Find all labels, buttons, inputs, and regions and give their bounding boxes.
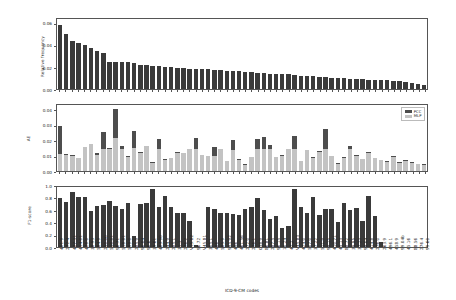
x-tick-mark	[326, 90, 327, 92]
x-tick-mark	[289, 90, 290, 92]
x-tick-label: 410.71	[332, 235, 337, 250]
bar	[243, 72, 247, 89]
bar	[76, 43, 80, 89]
x-tick-mark	[326, 172, 327, 174]
x-tick-label: V15.82	[189, 235, 194, 250]
bar-mlp	[120, 149, 124, 172]
x-tick-mark	[109, 172, 110, 174]
x-tick-label: 496	[233, 242, 238, 250]
legend-item-mlp: MLP	[405, 114, 422, 118]
bar	[231, 71, 235, 89]
bar-mlp	[255, 149, 259, 172]
x-tick-mark	[146, 172, 147, 174]
x-tick-mark	[301, 172, 302, 174]
bar	[342, 78, 346, 89]
bar	[83, 45, 87, 89]
x-tick-label: 99.60	[425, 238, 430, 250]
y-tick-mark	[54, 110, 56, 111]
x-tick-label: 276.2	[183, 238, 188, 250]
x-tick-mark	[425, 90, 426, 92]
x-tick-mark	[171, 90, 172, 92]
x-tick-mark	[357, 172, 358, 174]
bar	[70, 41, 74, 89]
bar-mlp	[403, 161, 407, 171]
x-tick-label: 10.24	[282, 238, 287, 250]
x-tick-label: 038.9	[258, 238, 263, 250]
bar-mlp	[169, 158, 173, 171]
relative-frequency-axis-label: Relative frequency	[40, 27, 45, 87]
x-tick-mark	[282, 172, 283, 174]
bar-mlp	[391, 157, 395, 171]
bar-mlp	[95, 155, 99, 172]
x-tick-label: 37.22	[313, 238, 318, 250]
y-tick-label: 1.0	[26, 184, 52, 189]
legend-swatch-mlp	[405, 115, 412, 118]
x-tick-mark	[90, 172, 91, 174]
bar	[225, 71, 229, 89]
bar	[280, 74, 284, 89]
x-tick-label: 38.93	[90, 238, 95, 250]
x-tick-mark	[208, 172, 209, 174]
x-tick-label: 496.1	[388, 238, 393, 250]
x-tick-mark	[183, 90, 184, 92]
y-tick-mark	[54, 126, 56, 127]
bar-mlp	[410, 163, 414, 171]
bar-mlp	[200, 155, 204, 171]
x-tick-mark	[146, 90, 147, 92]
bar	[206, 69, 210, 89]
x-tick-label: 428.0	[84, 238, 89, 250]
x-tick-label: 99.04	[363, 238, 368, 250]
y-tick-mark	[54, 141, 56, 142]
bar	[181, 68, 185, 89]
x-tick-mark	[413, 90, 414, 92]
legend: PCC MLP	[401, 107, 425, 121]
x-tick-label: 414.8	[369, 238, 374, 250]
x-tick-mark	[388, 90, 389, 92]
bar	[360, 79, 364, 89]
x-tick-mark	[227, 90, 228, 92]
x-tick-mark	[301, 90, 302, 92]
bar	[373, 80, 377, 89]
y-tick-mark	[54, 68, 56, 69]
x-axis-title: ICD-9-CM codes	[56, 288, 428, 293]
y-tick-mark	[54, 46, 56, 47]
x-tick-label: 272.0	[245, 238, 250, 250]
ae-axis-label: AE	[26, 119, 31, 159]
y-tick-label: 0.0	[26, 246, 52, 251]
x-tick-mark	[90, 90, 91, 92]
x-tick-label: 599.0	[127, 238, 132, 250]
bar	[354, 79, 358, 89]
x-tick-mark	[258, 172, 259, 174]
x-tick-mark	[251, 90, 252, 92]
x-tick-mark	[406, 90, 407, 92]
bar-mlp	[317, 152, 321, 172]
bar-mlp	[274, 157, 278, 171]
bar-mlp	[280, 156, 284, 171]
x-tick-mark	[84, 172, 85, 174]
y-tick-mark	[54, 186, 56, 187]
bar-mlp	[268, 149, 272, 172]
x-tick-mark	[258, 90, 259, 92]
icd-code-tick-labels: 401.9272.4427.31414.01428.038.93584.9250…	[56, 250, 428, 290]
x-tick-mark	[245, 172, 246, 174]
bar	[311, 76, 315, 89]
x-tick-label: 96.04	[140, 238, 145, 250]
x-tick-mark	[338, 90, 339, 92]
bar-mlp	[342, 158, 346, 171]
bar	[187, 69, 191, 89]
x-tick-mark	[276, 172, 277, 174]
y-tick-mark	[54, 172, 56, 173]
x-tick-mark	[189, 172, 190, 174]
bar	[299, 76, 303, 89]
x-tick-mark	[419, 172, 420, 174]
bar-mlp	[163, 160, 167, 171]
bar-mlp	[126, 157, 130, 171]
bar	[126, 62, 130, 89]
x-tick-label: 414.01	[78, 235, 83, 250]
x-tick-mark	[140, 172, 141, 174]
x-tick-label: 995.92	[227, 235, 232, 250]
bar	[348, 79, 352, 89]
x-tick-mark	[276, 90, 277, 92]
bar	[163, 67, 167, 89]
bar-mlp	[70, 156, 74, 171]
